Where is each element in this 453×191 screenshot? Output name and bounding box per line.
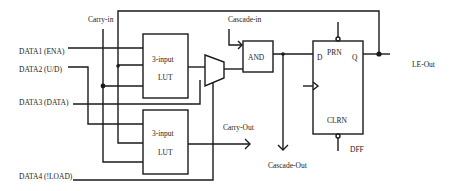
dff-prn-label: PRN: [327, 48, 342, 57]
input-label-data3: DATA3 (DATA): [19, 98, 69, 107]
le-out-label: LE-Out: [412, 60, 436, 69]
clrn-bubble-icon: [336, 134, 340, 138]
junction-dot: [376, 51, 381, 56]
prn-bubble-icon: [336, 37, 340, 41]
cascade-in-label: Cascade-in: [228, 15, 262, 24]
junction-dot: [116, 64, 120, 68]
data2-wire: [68, 67, 143, 124]
carry-in-label: Carry-in: [88, 15, 114, 24]
lut-bottom-line2: LUT: [158, 148, 173, 157]
cascade-out-label: Cascade-Out: [268, 161, 308, 170]
lut-bottom: [143, 110, 188, 174]
lut-bottom-line1: 3-input: [152, 129, 175, 138]
dff-label: DFF: [350, 145, 364, 154]
lut-top: [143, 34, 188, 98]
junction-dot: [101, 84, 106, 89]
dff-clrn-label: CLRN: [327, 116, 348, 125]
logic-element-diagram: DATA1 (ENA) DATA2 (U/D) DATA3 (DATA) DAT…: [0, 0, 453, 191]
carry-in-wire: [103, 29, 143, 162]
input-label-data2: DATA2 (U/D): [19, 65, 62, 74]
input-label-data1: DATA1 (ENA): [19, 47, 65, 56]
mux: [205, 55, 224, 86]
carry-out-label: Carry-Out: [223, 123, 255, 132]
dff-d-label: D: [317, 53, 323, 62]
input-label-data4: DATA4 (!LOAD): [19, 172, 73, 181]
lut-top-line1: 3-input: [152, 55, 175, 64]
lut-top-line2: LUT: [158, 73, 173, 82]
dff-q-label: Q: [352, 53, 358, 62]
and-gate-label: AND: [248, 53, 265, 62]
